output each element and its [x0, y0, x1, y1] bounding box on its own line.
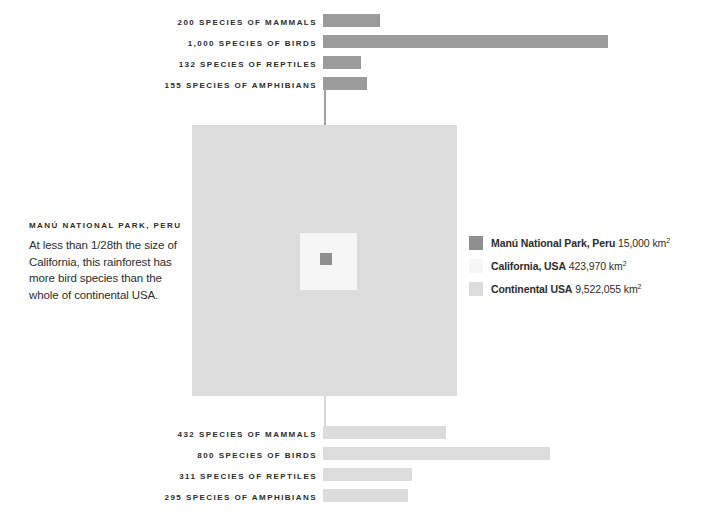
bar-track — [323, 14, 380, 27]
bar-track — [323, 468, 412, 481]
manu-species-bar-chart: 200 SPECIES OF MAMMALS 1,000 SPECIES OF … — [0, 14, 703, 98]
bar-row: 155 SPECIES OF AMPHIBIANS — [0, 77, 703, 96]
description-heading: MANÚ NATIONAL PARK, PERU — [29, 221, 189, 230]
bar-fill-reptiles-usa — [323, 468, 412, 481]
bar-track — [323, 426, 446, 439]
bar-fill-amphibians-usa — [323, 489, 408, 502]
bar-track — [323, 77, 367, 90]
legend-row-continental-usa: Continental USA 9,522,055 km2 — [469, 277, 670, 300]
bar-fill-amphibians-manu — [323, 77, 367, 90]
legend-area-manu: 15,000 km2 — [618, 237, 670, 249]
bar-track — [323, 489, 408, 502]
bar-label-mammals-usa: 432 SPECIES OF MAMMALS — [57, 430, 317, 439]
bar-row: 132 SPECIES OF REPTILES — [0, 56, 703, 75]
legend-area-value-continental-usa: 9,522,055 km — [575, 283, 637, 295]
bar-label-birds-manu: 1,000 SPECIES OF BIRDS — [57, 39, 317, 48]
legend-area-exponent-california: 2 — [623, 259, 627, 266]
legend-swatch-california — [469, 259, 483, 273]
legend-area-value-manu: 15,000 km — [618, 237, 666, 249]
bar-fill-birds-usa — [323, 447, 550, 460]
bar-label-amphibians-manu: 155 SPECIES OF AMPHIBIANS — [57, 81, 317, 90]
infographic-canvas: 200 SPECIES OF MAMMALS 1,000 SPECIES OF … — [0, 0, 703, 519]
legend: Manú National Park, Peru 15,000 km2 Cali… — [469, 231, 670, 300]
legend-area-california: 423,970 km2 — [569, 260, 627, 272]
bar-label-birds-usa: 800 SPECIES OF BIRDS — [57, 451, 317, 460]
legend-name-continental-usa: Continental USA — [491, 283, 572, 295]
connector-line-bottom — [324, 392, 326, 426]
legend-text-continental-usa: Continental USA 9,522,055 km2 — [491, 283, 641, 295]
bar-label-amphibians-usa: 295 SPECIES OF AMPHIBIANS — [57, 493, 317, 502]
legend-area-exponent-continental-usa: 2 — [638, 282, 642, 289]
legend-swatch-manu — [469, 236, 483, 250]
bar-row: 295 SPECIES OF AMPHIBIANS — [0, 489, 703, 508]
continental-usa-species-bar-chart: 432 SPECIES OF MAMMALS 800 SPECIES OF BI… — [0, 426, 703, 510]
bar-fill-reptiles-manu — [323, 56, 361, 69]
bar-track — [323, 447, 550, 460]
legend-area-exponent-manu: 2 — [666, 236, 670, 243]
legend-text-manu: Manú National Park, Peru 15,000 km2 — [491, 237, 670, 249]
bar-fill-mammals-manu — [323, 14, 380, 27]
bar-row: 311 SPECIES OF REPTILES — [0, 468, 703, 487]
bar-label-reptiles-usa: 311 SPECIES OF REPTILES — [57, 472, 317, 481]
legend-row-california: California, USA 423,970 km2 — [469, 254, 670, 277]
legend-swatch-continental-usa — [469, 282, 483, 296]
legend-area-value-california: 423,970 km — [569, 260, 623, 272]
area-square-manu-national-park — [320, 253, 332, 265]
bar-row: 200 SPECIES OF MAMMALS — [0, 14, 703, 33]
bar-fill-birds-manu — [323, 35, 608, 48]
bar-fill-mammals-usa — [323, 426, 446, 439]
bar-row: 1,000 SPECIES OF BIRDS — [0, 35, 703, 54]
legend-area-continental-usa: 9,522,055 km2 — [575, 283, 641, 295]
description-block: MANÚ NATIONAL PARK, PERU At less than 1/… — [29, 221, 189, 303]
legend-name-california: California, USA — [491, 260, 566, 272]
bar-label-mammals-manu: 200 SPECIES OF MAMMALS — [57, 18, 317, 27]
bar-label-reptiles-manu: 132 SPECIES OF REPTILES — [57, 60, 317, 69]
legend-text-california: California, USA 423,970 km2 — [491, 260, 626, 272]
bar-row: 800 SPECIES OF BIRDS — [0, 447, 703, 466]
bar-row: 432 SPECIES OF MAMMALS — [0, 426, 703, 445]
legend-row-manu: Manú National Park, Peru 15,000 km2 — [469, 231, 670, 254]
legend-name-manu: Manú National Park, Peru — [491, 237, 615, 249]
bar-track — [323, 35, 608, 48]
bar-track — [323, 56, 361, 69]
description-body: At less than 1/28th the size of Californ… — [29, 237, 189, 303]
